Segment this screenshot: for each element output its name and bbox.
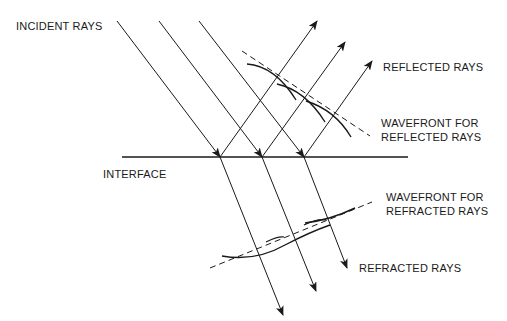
label-line: REFRACTED RAYS	[386, 205, 488, 219]
label-interface: INTERFACE	[103, 168, 167, 182]
refracted-wavelet	[305, 208, 355, 223]
label-line: WAVEFRONT FOR	[381, 117, 481, 131]
refracted-ray	[304, 157, 347, 268]
label-refracted-rays: REFRACTED RAYS	[359, 262, 461, 276]
label-wavefront-reflected: WAVEFRONT FOR REFLECTED RAYS	[381, 117, 481, 144]
label-line: REFLECTED RAYS	[381, 131, 481, 145]
incident-ray	[159, 21, 262, 157]
refracted-ray	[262, 157, 316, 291]
reflected-wavelet	[247, 64, 296, 100]
label-wavefront-refracted: WAVEFRONT FOR REFRACTED RAYS	[386, 191, 488, 218]
label-reflected-rays: REFLECTED RAYS	[383, 61, 483, 75]
reflected-ray	[262, 42, 345, 157]
refracted-ray	[220, 157, 283, 315]
incident-ray	[117, 21, 220, 157]
label-incident-rays: INCIDENT RAYS	[16, 20, 103, 34]
label-line: WAVEFRONT FOR	[386, 191, 488, 205]
reflected-ray	[220, 21, 317, 157]
reflected-wavefront-dashed	[242, 51, 370, 136]
reflected-ray	[304, 61, 372, 157]
